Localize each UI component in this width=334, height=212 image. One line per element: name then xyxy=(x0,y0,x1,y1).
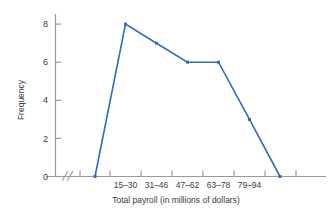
y-axis-title: Frequency xyxy=(16,79,26,120)
x-category-label-2: 47–62 xyxy=(176,180,200,190)
data-point-right-zero xyxy=(279,175,282,178)
y-tick-label-4: 4 xyxy=(43,95,48,105)
x-axis-title: Total payroll (in millions of dollars) xyxy=(112,195,240,205)
y-tick-label-2: 2 xyxy=(43,134,48,144)
data-point-63-78 xyxy=(217,61,220,64)
x-category-label-4: 79–94 xyxy=(238,180,262,190)
y-tick-label-8: 8 xyxy=(43,19,48,29)
x-axis-ticks xyxy=(80,171,296,177)
frequency-polygon-chart: 0 2 4 6 8 15–30 31–46 47–62 63–78 79–94 xyxy=(0,0,334,212)
y-axis-ticks xyxy=(56,24,62,176)
y-tick-label-0: 0 xyxy=(43,172,48,182)
data-point-15-30 xyxy=(124,23,127,26)
data-point-47-62 xyxy=(186,61,189,64)
x-category-label-0: 15–30 xyxy=(114,180,138,190)
data-point-31-46 xyxy=(155,42,158,45)
data-point-79-94 xyxy=(248,118,251,121)
x-category-label-1: 31–46 xyxy=(145,180,169,190)
chart-svg: 0 2 4 6 8 15–30 31–46 47–62 63–78 79–94 xyxy=(0,0,334,212)
frequency-polygon-line xyxy=(95,24,280,176)
x-category-label-3: 63–78 xyxy=(207,180,231,190)
data-point-left-zero xyxy=(94,175,97,178)
y-tick-label-6: 6 xyxy=(43,57,48,67)
